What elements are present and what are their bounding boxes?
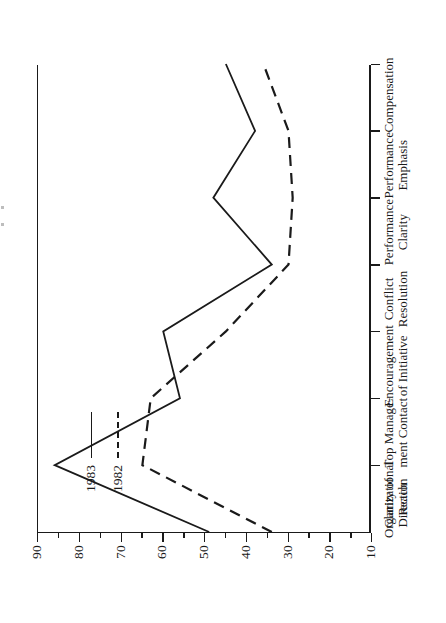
value-axis-label: 10 xyxy=(363,545,379,559)
category-axis-label: Encouragement of Initiative xyxy=(382,325,410,407)
value-axis-minor-tick xyxy=(267,533,268,538)
series-line-1983 xyxy=(55,64,272,532)
value-axis-tick xyxy=(79,533,80,542)
value-axis-minor-tick xyxy=(225,533,226,538)
category-axis-label: Conflict Resolution xyxy=(382,271,410,327)
value-axis-minor-tick xyxy=(350,533,351,538)
category-axis-tick xyxy=(371,130,380,131)
rotated-chart-canvas: 1983 1982 908070605040302010 Clarity of … xyxy=(23,31,423,591)
value-axis-minor-tick xyxy=(58,533,59,538)
category-axis-tick xyxy=(371,264,380,265)
category-axis-tick xyxy=(371,197,380,198)
value-axis-minor-tick xyxy=(183,533,184,538)
value-axis-tick xyxy=(246,533,247,542)
value-axis-tick xyxy=(371,533,372,542)
value-axis-tick xyxy=(288,533,289,542)
value-axis-label: 80 xyxy=(71,545,87,559)
value-axis-minor-tick xyxy=(141,533,142,538)
category-axis-tick xyxy=(371,398,380,399)
cropped-axis-title-mark xyxy=(1,206,4,240)
value-axis-label: 70 xyxy=(113,545,129,559)
chart-figure: 1983 1982 908070605040302010 Clarity of … xyxy=(0,0,446,623)
category-axis-label: Top Manage- ment Contact xyxy=(382,398,410,468)
value-axis-tick xyxy=(329,533,330,542)
category-axis: Clarity of DirectionOrganizational Reach… xyxy=(371,65,423,533)
value-axis-label: 60 xyxy=(154,545,170,559)
value-axis-tick xyxy=(204,533,205,542)
value-axis-label: 30 xyxy=(280,545,296,559)
value-axis-label: 20 xyxy=(321,545,337,559)
value-axis: 908070605040302010 xyxy=(37,533,371,591)
value-axis-tick xyxy=(121,533,122,542)
data-lines xyxy=(38,64,372,532)
plot-area xyxy=(37,65,371,533)
value-axis-label: 40 xyxy=(238,545,254,559)
category-axis-tick xyxy=(371,465,380,466)
category-axis-label: Performance Clarity xyxy=(382,199,410,265)
value-axis-minor-tick xyxy=(100,533,101,538)
category-axis-tick xyxy=(371,331,380,332)
value-axis-minor-tick xyxy=(308,533,309,538)
value-axis-tick xyxy=(162,533,163,542)
value-axis-label: 50 xyxy=(196,545,212,559)
category-axis-label: Performance Emphasis xyxy=(382,132,410,198)
category-axis-label: Compensation xyxy=(382,57,396,132)
value-axis-label: 90 xyxy=(29,545,45,559)
value-axis-tick xyxy=(37,533,38,542)
category-axis-tick xyxy=(371,64,380,65)
category-axis-label: Organizational Reach xyxy=(382,461,410,538)
